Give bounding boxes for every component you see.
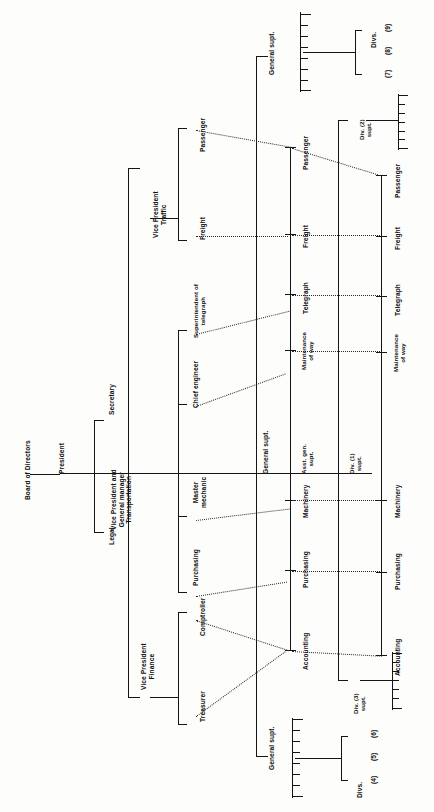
connector-gensupt-top-stub	[256, 56, 268, 57]
connector-finance-bus	[178, 612, 179, 724]
label-div1-machinery: Machinery	[394, 484, 402, 518]
node-vp-finance: Vice President Finance	[140, 643, 155, 690]
node-supt-telegraph: Superintendent of telegraph	[192, 284, 206, 338]
node-div2-supt: Div. (2) supt.	[358, 119, 372, 140]
node-divs-789-label: Divs.	[370, 32, 378, 48]
connector-div1-bus	[338, 120, 339, 680]
node-asst-gen-supt: Asst. gen. supt.	[300, 444, 314, 474]
connector-top-comb-to-divs	[303, 52, 355, 53]
node-president: President	[58, 443, 66, 474]
tick-div1-telegraph	[376, 296, 387, 297]
label-asst-machinery: Machinery	[302, 484, 310, 518]
connector-divs456-bus	[341, 736, 342, 780]
node-div-4: (4)	[370, 776, 378, 784]
node-treasurer: Treasurer	[199, 691, 207, 722]
dotted-supt-telegraph-to-asst-telegraph	[196, 311, 289, 335]
node-divs-456-label: Divs.	[356, 782, 364, 798]
label-div1-passenger: Passenger	[394, 164, 402, 198]
node-vp-traffic: Vice President Traffic	[152, 191, 167, 238]
connector-purchasing-staff-stub	[178, 592, 187, 593]
label-div1-accounting: Accounting	[394, 639, 402, 676]
dotted-treasurer-to-asst-accounting	[196, 651, 286, 716]
node-div-8: (8)	[384, 47, 392, 55]
dotted-purchasing-to-asst-purchasing	[196, 582, 287, 597]
connector-vp-finance-trunk	[150, 697, 178, 698]
connector-transportation-staff-bus	[178, 330, 179, 592]
connector-transportation-trunk	[150, 473, 256, 474]
label-asst-telegraph: Telegraph	[302, 282, 310, 314]
node-general-supt-bottom: General supt.	[268, 727, 276, 770]
node-general-supt-top: General supt.	[268, 32, 276, 75]
connector-vp-finance-stub	[128, 697, 140, 698]
org-chart-canvas: Board of Directors President Legal Secre…	[0, 0, 434, 812]
label-asst-freight: Freight	[302, 225, 310, 248]
dotted-master-mechanic-to-asst-machinery	[196, 508, 290, 521]
node-general-supt-mid: General supt.	[262, 431, 270, 474]
node-secretary: Secretary	[108, 384, 116, 415]
connector-div3-stub	[338, 680, 348, 681]
dotted-asst-telegraph-to-div1-telegraph	[292, 295, 380, 296]
connector-div2-stub	[338, 120, 348, 121]
tick-div1-maintenance	[376, 352, 387, 353]
connector-vp-bus	[128, 168, 129, 698]
connector-div7-stub	[355, 74, 362, 75]
dotted-comptroller-to-asst-accounting	[196, 620, 290, 651]
connector-div1-functional-bus	[381, 175, 382, 655]
dotted-traffic-passenger-to-asst-passenger	[196, 130, 293, 148]
node-div-6: (6)	[370, 730, 378, 738]
dotted-chief-engineer-to-asst-maintenance	[196, 374, 286, 407]
tick-div1-purchasing	[376, 572, 387, 573]
connector-board-president	[30, 474, 60, 475]
connector-legal-stub	[94, 532, 104, 533]
connector-div6-stub	[341, 736, 348, 737]
node-vp-transportation: Vice President and General manager Trans…	[110, 469, 133, 530]
connector-gensupt-bottom-stub	[256, 756, 268, 757]
node-purchasing-staff: Purchasing	[192, 549, 200, 586]
label-div1-purchasing: Purchasing	[394, 553, 402, 590]
connector-vp-traffic-stub	[128, 168, 140, 169]
connector-bottom-comb-to-divs	[295, 758, 341, 759]
dotted-asst-maintenance-to-div1-maintenance	[292, 351, 380, 352]
connector-chief-engineer-stub	[178, 404, 187, 405]
label-asst-purchasing: Purchasing	[302, 551, 310, 588]
connector-secretary-stub	[94, 420, 104, 421]
node-div-5: (5)	[370, 753, 378, 761]
node-board-of-directors: Board of Directors	[24, 440, 32, 500]
node-traffic-passenger: Passenger	[199, 118, 207, 152]
node-div1-supt: Div. (1) supt.	[348, 453, 362, 474]
connector-president-trunk	[60, 473, 150, 474]
node-div-9: (9)	[384, 24, 392, 32]
dotted-asst-freight-to-div1-freight	[292, 235, 380, 236]
node-div3-supt: Div. (3) supt.	[352, 693, 366, 714]
connector-traffic-passenger-stub	[178, 128, 187, 129]
connector-president-bus	[94, 420, 95, 532]
connector-divs789-bus	[355, 30, 356, 74]
connector-master-mechanic-stub	[178, 516, 187, 517]
connector-div1-trunk	[322, 473, 372, 474]
dotted-asst-machinery-to-div1-machinery	[292, 500, 380, 501]
connector-traffic-bus	[178, 128, 179, 240]
tick-div1-freight	[376, 236, 387, 237]
label-div1-freight: Freight	[394, 227, 402, 250]
dotted-asst-purchasing-to-div1-purchasing	[292, 571, 380, 572]
connector-supt-telegraph-stub	[178, 330, 187, 331]
connector-asst-gen-supt-trunk	[290, 473, 324, 474]
node-chief-engineer: Chief engineer	[192, 361, 200, 408]
dotted-traffic-freight-to-asst-freight	[196, 236, 288, 237]
connector-traffic-freight-stub	[178, 240, 187, 241]
connector-treasurer-stub	[178, 724, 187, 725]
connector-vp-traffic-trunk	[150, 218, 178, 219]
label-div1-maintenance-of-way: Maintenance of way	[392, 334, 406, 372]
connector-div4-stub	[341, 780, 348, 781]
connector-div3-to-comb	[360, 680, 392, 681]
node-div-7: (7)	[384, 70, 392, 78]
connector-gensupt-bus	[256, 56, 257, 756]
node-master-mechanic: Master mechanic	[192, 477, 207, 508]
label-div1-telegraph: Telegraph	[394, 284, 402, 316]
connector-comptroller-stub	[178, 612, 187, 613]
connector-div2-to-comb	[366, 120, 398, 121]
connector-asst-gen-supt-bus	[290, 147, 291, 650]
connector-div9-stub	[355, 30, 362, 31]
node-comptroller: Comptroller	[199, 598, 207, 636]
